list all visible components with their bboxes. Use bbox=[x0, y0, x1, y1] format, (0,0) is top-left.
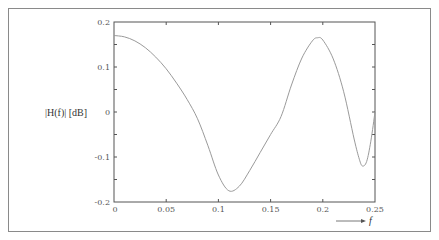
x-axis-title: f bbox=[369, 215, 373, 226]
x-tick-label: 0.15 bbox=[262, 205, 280, 214]
y-tick-label: 0 bbox=[105, 108, 110, 117]
x-tick-label: 0.1 bbox=[212, 205, 225, 214]
response-curve bbox=[114, 36, 375, 192]
x-tick-label: 0.2 bbox=[316, 205, 329, 214]
arrow-right-icon bbox=[361, 219, 366, 223]
y-tick-label: -0.1 bbox=[95, 153, 110, 162]
y-axis-title: |H(f)| [dB] bbox=[45, 107, 87, 119]
chart: 0.2 0.1 0 -0.1 -0.2 0 0.05 0.1 0.15 0.2 … bbox=[0, 0, 439, 240]
plot-area bbox=[114, 22, 375, 202]
x-tick-label: 0.05 bbox=[157, 205, 175, 214]
y-tick-label: 0.2 bbox=[97, 18, 110, 27]
x-tick-label: 0 bbox=[112, 205, 117, 214]
y-tick-label: -0.2 bbox=[95, 198, 110, 207]
x-tick-label: 0.25 bbox=[366, 205, 384, 214]
x-ticks bbox=[166, 22, 323, 202]
y-tick-label: 0.1 bbox=[97, 63, 110, 72]
